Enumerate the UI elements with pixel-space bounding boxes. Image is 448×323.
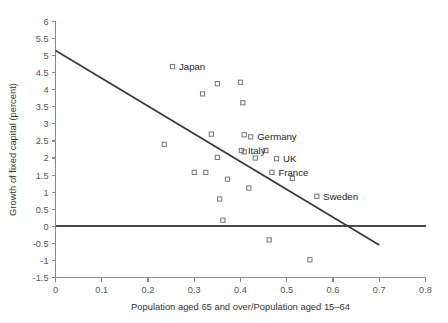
scatter-chart-figure: 65.554.543.532.521.510.50-0.5-1-1.5 00.1… [0, 0, 448, 323]
data-point-marker [247, 186, 251, 190]
data-point-marker [274, 157, 278, 161]
x-axis-title: Population aged 65 and over/Population a… [131, 301, 350, 312]
y-tick-label: 6 [43, 17, 48, 27]
country-label-italy: Italy [248, 145, 266, 156]
data-point-marker [200, 92, 204, 96]
x-axis-ticks: 00.10.20.30.40.50.60.70.8 [53, 278, 432, 295]
y-tick-label: 4 [43, 85, 48, 95]
y-tick-label: 2 [43, 153, 48, 163]
x-tick-label: 0.1 [95, 285, 108, 295]
y-tick-label: 2.5 [36, 136, 49, 146]
plot-area: 65.554.543.532.521.510.50-0.5-1-1.5 00.1… [0, 0, 448, 323]
data-point-marker [221, 218, 225, 222]
y-tick-label: 3 [43, 119, 48, 129]
country-label-sweden: Sweden [323, 191, 358, 202]
x-tick-label: 0.6 [327, 285, 340, 295]
data-point-marker [253, 156, 257, 160]
y-tick-label: 1.5 [36, 171, 49, 181]
x-tick-label: 0.4 [234, 285, 247, 295]
data-point-marker [239, 148, 243, 152]
country-label-france: France [278, 167, 308, 178]
data-point-marker [249, 135, 253, 139]
regression-trend-line [56, 51, 380, 246]
y-tick-label: -0.5 [33, 239, 49, 249]
data-point-marker [162, 142, 166, 146]
country-label-japan: Japan [179, 61, 205, 72]
y-axis-title: Growth of fixed capital (percent) [7, 83, 18, 216]
y-tick-label: 0 [43, 222, 48, 232]
y-tick-label: -1 [40, 256, 48, 266]
data-point-marker [270, 170, 274, 174]
x-tick-label: 0.2 [142, 285, 155, 295]
x-tick-label: 0.8 [419, 285, 432, 295]
country-label-germany: Germany [257, 131, 297, 142]
data-point-marker [242, 150, 246, 154]
data-point-marker [315, 194, 319, 198]
y-tick-label: 1 [43, 188, 48, 198]
data-point-marker [225, 177, 229, 181]
y-tick-label: 4.5 [36, 68, 49, 78]
data-point-marker [242, 133, 246, 137]
x-tick-label: 0.5 [280, 285, 293, 295]
y-tick-label: 3.5 [36, 102, 49, 112]
data-point-marker [192, 170, 196, 174]
data-point-marker [267, 238, 271, 242]
x-tick-label: 0.3 [188, 285, 201, 295]
data-point-labels: JapanGermanyItalyFranceUKSweden [179, 61, 358, 202]
y-tick-label: -1.5 [33, 273, 49, 283]
x-tick-label: 0 [53, 285, 58, 295]
data-point-marker [215, 155, 219, 159]
y-tick-label: 5.5 [36, 34, 49, 44]
country-label-uk: UK [283, 153, 297, 164]
y-tick-label: 5 [43, 51, 48, 61]
data-point-marker [215, 82, 219, 86]
data-point-marker [308, 258, 312, 262]
data-point-marker [209, 132, 213, 136]
data-point-marker [241, 101, 245, 105]
y-tick-label: 0.5 [36, 205, 49, 215]
y-axis-ticks: 65.554.543.532.521.510.50-0.5-1-1.5 [33, 17, 56, 283]
x-tick-label: 0.7 [373, 285, 386, 295]
data-point-marker [238, 80, 242, 84]
data-point-marker [170, 64, 174, 68]
data-point-marker [218, 197, 222, 201]
data-point-marker [204, 170, 208, 174]
